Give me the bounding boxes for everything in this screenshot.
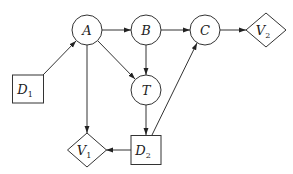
node-d2: D2 [131,136,161,165]
node-v2: V2 [246,13,286,47]
edge-d1-to-a [43,41,76,75]
node-label-main: B [140,23,151,38]
node-label-subscript: 2 [146,151,151,160]
node-label-main: D [134,143,146,158]
node-c: C [190,15,220,45]
node-label-main: D [16,82,28,97]
node-label: B [140,23,151,38]
node-t: T [131,75,161,105]
edge-a-to-t [98,41,135,79]
influence-diagram: ABCTD1D2V1V2 [0,0,293,174]
node-a: A [72,15,102,45]
node-v1: V1 [68,133,107,167]
node-label-subscript: 2 [265,31,270,40]
node-label-main: C [200,23,210,38]
node-label: C [200,23,210,38]
node-label-main: T [142,83,152,98]
node-b: B [131,15,161,45]
node-label-subscript: 1 [86,151,91,160]
node-label-subscript: 1 [28,90,33,99]
node-label: T [142,83,152,98]
node-d1: D1 [13,75,44,103]
node-label-main: A [81,23,91,38]
node-label: A [81,23,91,38]
